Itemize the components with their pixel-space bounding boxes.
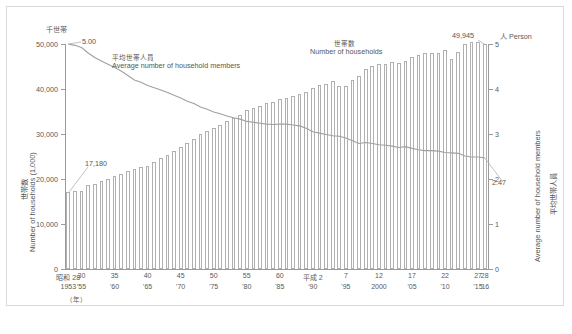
x-label-era: 35 — [111, 272, 119, 279]
x-label-era: 45 — [177, 272, 185, 279]
bar-label-en: Number of households — [310, 47, 382, 56]
right-tick-label: 1 — [495, 220, 499, 229]
right-tick-mark — [489, 269, 493, 270]
x-label-year: 2000 — [371, 283, 387, 290]
x-label-year: '16 — [480, 283, 489, 290]
x-label-year: '75 — [209, 283, 218, 290]
right-tick-label: 4 — [495, 85, 499, 94]
right-axis-title-en: Average number of household members — [533, 130, 542, 262]
left-tick-label: 40,000 — [36, 85, 58, 94]
bottom-axis-line — [65, 269, 489, 270]
right-tick-mark — [489, 134, 493, 135]
left-tick-mark — [61, 89, 65, 90]
last-bar-value-label: 49,945 — [452, 31, 474, 40]
x-label-era: 60 — [276, 272, 284, 279]
left-tick-label: 20,000 — [36, 175, 58, 184]
right-tick-label: 3 — [495, 130, 499, 139]
line-series — [65, 44, 489, 269]
x-label-year: '05 — [407, 283, 416, 290]
left-tick-mark — [61, 269, 65, 270]
x-label-era: 40 — [144, 272, 152, 279]
x-axis-note: （年） — [66, 294, 87, 304]
x-label-year: '70 — [176, 283, 185, 290]
x-label-year: '90 — [308, 283, 317, 290]
left-tick-label: 50,000 — [36, 40, 58, 49]
x-label-era: 55 — [243, 272, 251, 279]
x-label-era: 7 — [344, 272, 348, 279]
x-label-year: 1953 — [61, 283, 77, 290]
x-label-era: 17 — [408, 272, 416, 279]
x-label-era: 28 — [481, 272, 489, 279]
left-tick-mark — [61, 179, 65, 180]
x-label-year: '55 — [77, 283, 86, 290]
left-tick-mark — [61, 44, 65, 45]
x-label-era: 平成 2 — [303, 272, 323, 282]
right-axis-title-jp: 平均世帯人員 — [547, 173, 558, 215]
household-statistics-figure: 千世帯 人 Person Number of households (1,000… — [0, 0, 572, 334]
right-tick-mark — [489, 89, 493, 90]
last-line-value-label: 2.47 — [492, 178, 506, 187]
x-label-era: 50 — [210, 272, 218, 279]
first-bar-value-label: 17,180 — [85, 159, 107, 168]
line-label-en: Average number of household members — [112, 61, 240, 70]
right-tick-mark — [489, 224, 493, 225]
x-label-era: 12 — [375, 272, 383, 279]
left-tick-label: 10,000 — [36, 220, 58, 229]
left-tick-mark — [61, 134, 65, 135]
x-label-era: 30 — [78, 272, 86, 279]
left-tick-label: 30,000 — [36, 130, 58, 139]
x-label-year: '10 — [440, 283, 449, 290]
x-label-year: '65 — [143, 283, 152, 290]
x-label-year: '95 — [341, 283, 350, 290]
right-tick-mark — [489, 44, 493, 45]
x-label-era: 22 — [441, 272, 449, 279]
left-tick-mark — [61, 224, 65, 225]
first-line-value-label: 5.00 — [82, 37, 96, 46]
x-label-era: 昭和 28 — [56, 272, 80, 282]
left-axis-title-en: Number of households (1,000) — [28, 152, 37, 252]
right-axis-unit: 人 Person — [500, 31, 532, 41]
plot-area: 010,00020,00030,00040,00050,000 012345 — [65, 44, 488, 269]
x-label-year: '80 — [242, 283, 251, 290]
right-tick-label: 0 — [495, 265, 499, 274]
right-tick-label: 5 — [495, 40, 499, 49]
x-label-year: '85 — [275, 283, 284, 290]
x-label-year: '60 — [110, 283, 119, 290]
left-axis-unit: 千世帯 — [46, 24, 67, 34]
left-axis-title-jp: 世帯数 — [18, 179, 29, 200]
